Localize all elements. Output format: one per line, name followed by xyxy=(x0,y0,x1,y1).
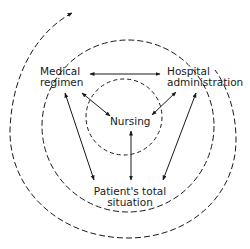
arrow-hospital-nursing xyxy=(152,92,176,115)
arrow-medical-patient xyxy=(65,93,94,180)
hospital-line2: administration xyxy=(167,77,243,88)
nursing-label: Nursing xyxy=(110,115,151,127)
node-patient-total-situation: Patient's total situation xyxy=(90,186,170,208)
node-hospital-administration: Hospital administration xyxy=(167,66,243,88)
patient-line2: situation xyxy=(90,197,170,208)
arrow-medical-nursing xyxy=(82,93,110,116)
arrow-hospital-patient xyxy=(163,93,196,180)
node-medical-regimen: Medical regimen xyxy=(40,66,83,88)
node-nursing: Nursing xyxy=(110,116,151,127)
medical-line2: regimen xyxy=(40,77,83,88)
